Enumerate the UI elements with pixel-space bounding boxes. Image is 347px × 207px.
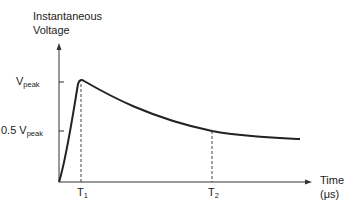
y-axis-arrow-icon xyxy=(57,43,62,50)
x-axis-arrow-icon xyxy=(305,180,312,185)
x-axis-unit: (μs) xyxy=(320,188,339,201)
y-axis-title-line2: Voltage xyxy=(33,24,70,37)
half-vpeak-main: 0.5 V xyxy=(1,124,27,136)
t2-main: T xyxy=(208,186,215,198)
t1-sub: 1 xyxy=(84,191,88,200)
x-axis-title: Time xyxy=(320,174,344,187)
t2-sub: 2 xyxy=(215,191,219,200)
half-vpeak-label: 0.5 Vpeak xyxy=(1,124,43,140)
t1-main: T xyxy=(77,186,84,198)
vpeak-sub: peak xyxy=(23,80,39,89)
voltage-curve xyxy=(59,80,300,182)
half-vpeak-sub: peak xyxy=(27,129,43,138)
vpeak-label: Vpeak xyxy=(16,75,40,91)
t2-label: T2 xyxy=(208,186,219,202)
y-axis-title-line1: Instantaneous xyxy=(33,10,102,23)
t1-label: T1 xyxy=(77,186,88,202)
